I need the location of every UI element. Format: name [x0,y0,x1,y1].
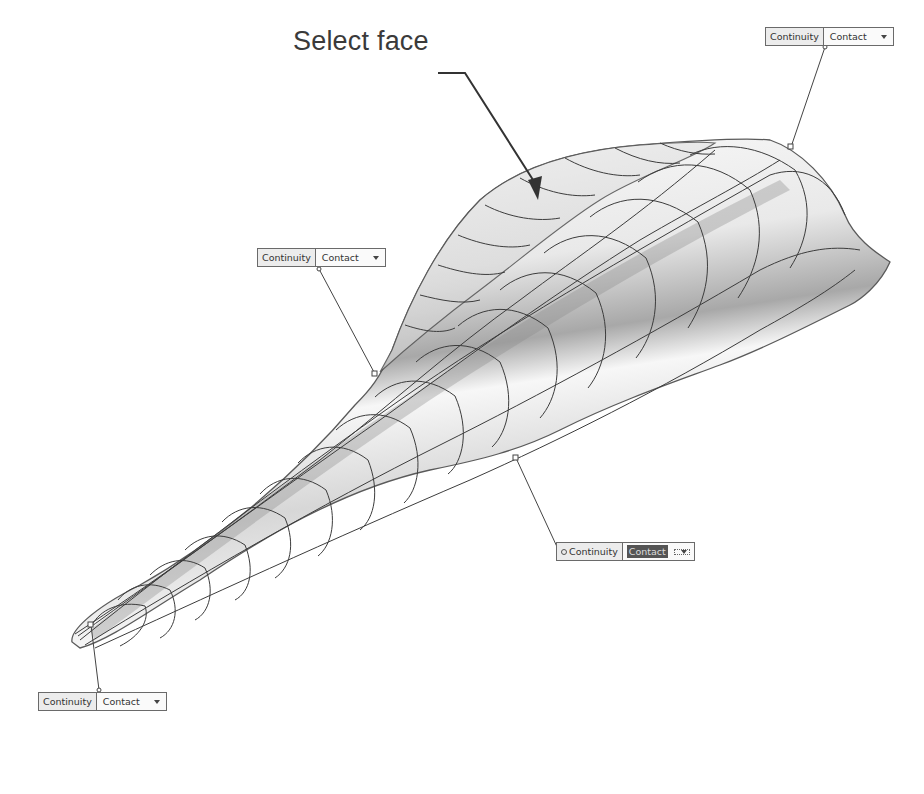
continuity-callout-top-right[interactable]: Continuity Contact [765,27,894,46]
handle-mid-left [372,371,377,376]
continuity-dropdown[interactable]: Contact [824,28,893,45]
surface-body[interactable] [72,139,890,648]
handle-bottom-left [88,622,93,627]
continuity-callout-mid-left[interactable]: Continuity Contact [257,248,386,267]
continuity-label: Continuity [766,28,824,45]
chevron-down-icon[interactable] [154,700,160,704]
continuity-callout-bottom-left[interactable]: Continuity Contact [38,692,167,711]
continuity-dropdown[interactable]: Contact [623,543,694,560]
continuity-label: Continuity [258,249,316,266]
continuity-value: Contact [627,545,668,558]
continuity-callout-mid-bottom[interactable]: Continuity Contact [556,542,695,561]
handle-top-right [788,144,793,149]
chevron-down-icon[interactable] [681,550,687,554]
anchor-dot-icon [561,549,567,555]
continuity-dropdown[interactable]: Contact [97,693,166,710]
continuity-dropdown[interactable]: Contact [316,249,385,266]
continuity-label: Continuity [39,693,97,710]
continuity-value: Contact [320,251,361,264]
continuity-label-text: Continuity [569,546,618,557]
surface-viewport[interactable] [0,0,924,794]
chevron-down-icon[interactable] [881,35,887,39]
continuity-value: Contact [101,695,142,708]
continuity-value: Contact [828,30,869,43]
handle-mid-bottom [513,455,518,460]
chevron-down-icon[interactable] [373,256,379,260]
select-face-label: Select face [293,26,429,57]
continuity-label: Continuity [557,543,623,560]
